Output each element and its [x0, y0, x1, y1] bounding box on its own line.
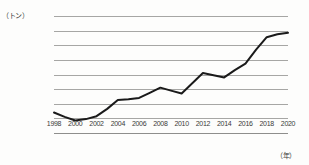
x-axis-unit-label: （年）: [276, 150, 296, 160]
plot-area: [54, 16, 288, 133]
series-line: [54, 16, 288, 133]
gridline: [54, 133, 288, 134]
line-chart: （トン） 01,0002,0003,0004,0005,0006,0007,00…: [0, 0, 309, 165]
series-polyline: [54, 33, 288, 121]
y-axis-unit-label: （トン）: [2, 10, 29, 20]
x-axis-tick-label: 2020: [273, 120, 303, 127]
